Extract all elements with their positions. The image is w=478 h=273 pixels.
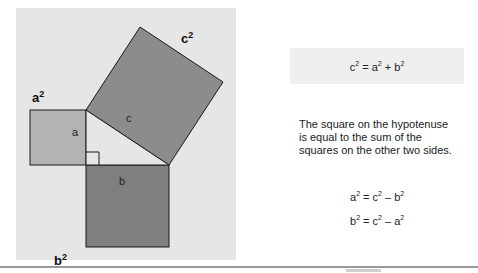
label-side-c: c <box>126 112 132 124</box>
label-a-squared: a2 <box>32 89 44 105</box>
label-side-a: a <box>72 126 78 138</box>
bottom-divider <box>0 266 478 268</box>
main-formula-box: c2 = a2 + b2 <box>290 48 464 84</box>
label-side-b: b <box>119 175 125 187</box>
theorem-caption: The square on the hypotenuse is equal to… <box>299 118 459 157</box>
bottom-tab <box>346 269 381 272</box>
square-b <box>86 165 169 247</box>
equation-a-squared: a2 = c2 – b2 <box>350 190 404 203</box>
main-formula: c2 = a2 + b2 <box>350 60 405 73</box>
equation-b-squared: b2 = c2 – a2 <box>350 214 404 227</box>
label-c-squared: c2 <box>181 30 193 46</box>
